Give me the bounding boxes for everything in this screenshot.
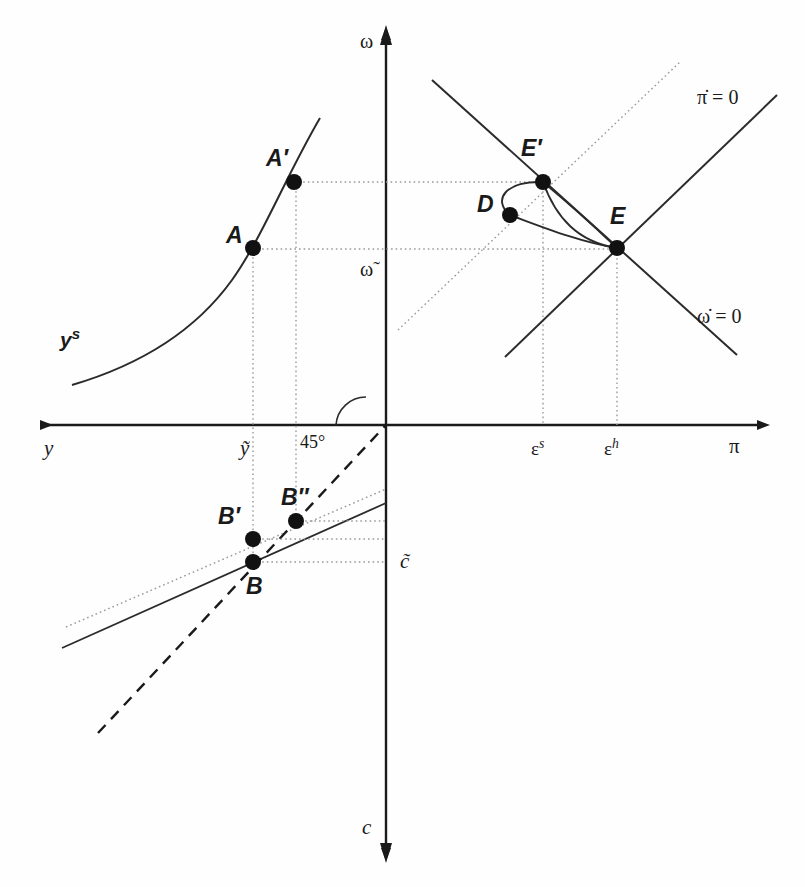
epsilon-h-base: ε bbox=[604, 438, 612, 459]
epsilon-s-sup: s bbox=[539, 436, 544, 451]
curve-label-pidot-zero: π̇ = 0 bbox=[697, 86, 738, 109]
curve-label-omegadot-zero: ω̇ = 0 bbox=[697, 305, 741, 328]
point-B[interactable] bbox=[245, 554, 261, 570]
point-B-double-prime[interactable] bbox=[288, 513, 304, 529]
point-label-Eprime: E′ bbox=[521, 135, 542, 162]
axis-label-pi: π bbox=[729, 434, 740, 459]
point-label-B: B bbox=[246, 573, 263, 600]
epsilon-h-sup: h bbox=[612, 436, 619, 451]
point-label-D: D bbox=[477, 191, 494, 218]
trajectory-eprime-to-e-upper bbox=[543, 182, 617, 248]
axis-label-y: y bbox=[44, 436, 53, 461]
point-A[interactable] bbox=[245, 240, 261, 256]
dotted-ray-45deg-ne bbox=[398, 62, 680, 330]
tick-label-omega-tilde: ω̃ bbox=[360, 258, 373, 281]
tick-label-y-tilde: ỹ bbox=[240, 436, 249, 461]
point-label-Bdprime: B″ bbox=[281, 484, 309, 511]
angle-label-45: 45° bbox=[300, 432, 325, 453]
point-label-A: A bbox=[226, 222, 243, 249]
ys-sup: s bbox=[72, 325, 80, 342]
arrowhead-c bbox=[380, 843, 392, 863]
point-A-prime[interactable] bbox=[286, 174, 302, 190]
line-45-degree-dashed bbox=[98, 425, 386, 733]
diagram-svg bbox=[0, 0, 805, 887]
axis-label-c: c bbox=[362, 815, 371, 840]
epsilon-s-base: ε bbox=[531, 438, 539, 459]
tick-label-c-tilde: c̃ bbox=[400, 549, 409, 574]
curve-label-ys: ys bbox=[60, 325, 80, 352]
arrowhead-omega bbox=[380, 25, 392, 45]
figure-canvas: y π ω c ỹ ω̃ c̃ εs εh ys π̇ = 0 ω̇ = 0 4… bbox=[0, 0, 805, 887]
point-E-prime[interactable] bbox=[535, 174, 551, 190]
tick-label-epsilon-h: εh bbox=[604, 436, 619, 460]
point-label-Aprime: A′ bbox=[266, 145, 288, 172]
point-label-Bprime: B′ bbox=[218, 503, 240, 530]
axis-label-omega: ω bbox=[360, 30, 373, 53]
point-B-prime[interactable] bbox=[245, 531, 261, 547]
point-E[interactable] bbox=[609, 240, 625, 256]
point-label-E: E bbox=[610, 203, 625, 230]
ys-base: y bbox=[60, 328, 72, 351]
angle-arc-45 bbox=[336, 397, 366, 425]
point-D[interactable] bbox=[502, 207, 518, 223]
tick-label-epsilon-s: εs bbox=[531, 436, 544, 460]
